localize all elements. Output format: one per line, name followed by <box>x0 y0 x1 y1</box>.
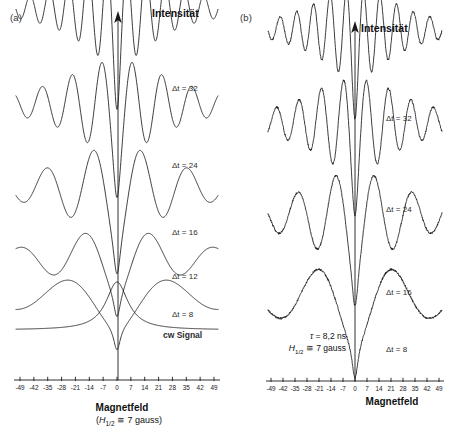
svg-text:28: 28 <box>399 385 407 392</box>
svg-text:42: 42 <box>197 384 205 391</box>
svg-text:-7: -7 <box>100 384 106 391</box>
svg-text:7: 7 <box>365 385 369 392</box>
svg-text:14: 14 <box>141 384 149 391</box>
panel-a: (a) Intensität -49-42-35-28-21-14-707142… <box>0 0 228 434</box>
panel-a-trace-label-24: Δt = 24 <box>172 161 198 170</box>
svg-text:35: 35 <box>183 384 191 391</box>
panel-b-annotation-h: H1/2 ≅ 7 gauss <box>238 342 346 358</box>
panel-b-annotation-tau: τ = 8,2 ns <box>238 330 346 342</box>
svg-text:-35: -35 <box>290 385 300 392</box>
panel-a-x-axis-subtitle: (H1/2 ≅ 7 gauss) <box>74 415 184 427</box>
panel-b: (b) Intensität -49-42-35-28-21-14-707142… <box>228 0 452 434</box>
svg-text:21: 21 <box>155 384 163 391</box>
panel-a-trace-label-8: Δt = 8 <box>172 310 193 319</box>
svg-text:-7: -7 <box>340 385 346 392</box>
panel-b-trace-label-8: Δt = 8 <box>386 345 407 354</box>
svg-text:-28: -28 <box>302 385 312 392</box>
svg-text:-49: -49 <box>15 384 25 391</box>
panel-b-plot: -49-42-35-28-21-14-707142128354249 <box>228 0 452 434</box>
svg-text:-42: -42 <box>278 385 288 392</box>
panel-a-x-ticks: -49-42-35-28-21-14-707142128354249 <box>15 377 218 391</box>
svg-text:-21: -21 <box>71 384 81 391</box>
panel-b-x-axis-title: Magnetfeld <box>344 396 440 407</box>
figure-root: (a) Intensität -49-42-35-28-21-14-707142… <box>0 0 452 434</box>
svg-text:-14: -14 <box>85 384 95 391</box>
svg-text:-49: -49 <box>266 385 276 392</box>
svg-text:21: 21 <box>387 385 395 392</box>
svg-text:-42: -42 <box>29 384 39 391</box>
svg-text:42: 42 <box>423 385 431 392</box>
svg-text:-21: -21 <box>314 385 324 392</box>
panel-a-trace-label-32: Δt = 32 <box>172 84 198 93</box>
panel-b-trace-label-24: Δt = 24 <box>386 205 412 214</box>
panel-a-trace-label-12: Δt = 12 <box>172 272 198 281</box>
panel-b-trace-label-32: Δt = 32 <box>386 114 412 123</box>
svg-text:0: 0 <box>115 384 119 391</box>
svg-text:0: 0 <box>353 385 357 392</box>
panel-b-annotation: τ = 8,2 ns H1/2 ≅ 7 gauss <box>238 330 346 358</box>
panel-a-plot: -49-42-35-28-21-14-707142128354249 <box>0 0 228 434</box>
svg-text:28: 28 <box>169 384 177 391</box>
panel-a-curves <box>16 0 218 350</box>
svg-text:-14: -14 <box>326 385 336 392</box>
panel-a-cw-signal-label: cw Signal <box>163 330 202 340</box>
svg-text:35: 35 <box>411 385 419 392</box>
svg-text:-28: -28 <box>57 384 67 391</box>
svg-text:-35: -35 <box>43 384 53 391</box>
svg-text:7: 7 <box>129 384 133 391</box>
panel-b-trace-label-16: Δt = 16 <box>386 288 412 297</box>
panel-b-x-ticks: -49-42-35-28-21-14-707142128354249 <box>266 378 443 392</box>
panel-a-trace-label-16: Δt = 16 <box>172 228 198 237</box>
svg-text:14: 14 <box>375 385 383 392</box>
svg-text:49: 49 <box>210 384 218 391</box>
svg-text:49: 49 <box>435 385 443 392</box>
panel-a-x-axis-title: Magnetfeld <box>74 402 170 413</box>
